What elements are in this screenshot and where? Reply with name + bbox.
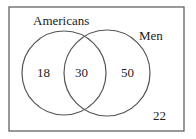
americans-only-value: 18 xyxy=(37,65,50,80)
americans-label: Americans xyxy=(33,13,89,28)
men-only-value: 50 xyxy=(121,65,134,80)
venn-diagram: Americans Men 18 30 50 22 xyxy=(0,0,196,139)
intersection-value: 30 xyxy=(75,65,88,80)
men-label: Men xyxy=(139,28,163,43)
outside-value: 22 xyxy=(153,108,166,123)
